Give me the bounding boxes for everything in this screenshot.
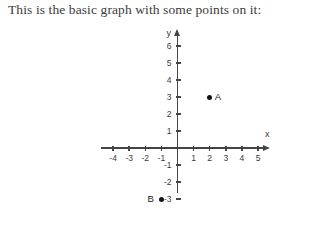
y-axis-tick-label: 3 bbox=[152, 92, 172, 102]
y-axis-tick-label: 2 bbox=[152, 109, 172, 119]
y-axis-tick-label: 1 bbox=[152, 126, 172, 136]
y-axis-tick-label: -2 bbox=[152, 177, 172, 187]
y-axis-tick-label: 4 bbox=[152, 75, 172, 85]
x-axis-tick bbox=[193, 146, 195, 151]
y-axis-tick bbox=[176, 181, 181, 183]
x-axis-arrow-icon bbox=[263, 145, 270, 151]
data-point-a bbox=[207, 95, 212, 100]
x-axis-tick bbox=[128, 146, 130, 151]
coordinate-graph: x y -4-3-2-112345654321-1-2-3AB bbox=[0, 0, 316, 227]
data-point-label-a: A bbox=[215, 91, 221, 102]
y-axis-tick bbox=[176, 164, 181, 166]
y-axis-tick bbox=[176, 113, 181, 115]
y-axis-tick bbox=[176, 130, 181, 132]
x-axis-label: x bbox=[265, 129, 270, 139]
y-axis-tick bbox=[176, 96, 181, 98]
x-axis-tick bbox=[209, 146, 211, 151]
y-axis-arrow-icon bbox=[174, 29, 180, 36]
y-axis-tick-label: 6 bbox=[152, 41, 172, 51]
x-axis-tick bbox=[225, 146, 227, 151]
y-axis-tick-label: -1 bbox=[152, 160, 172, 170]
y-axis-tick-label: 5 bbox=[152, 58, 172, 68]
x-axis-tick bbox=[241, 146, 243, 151]
data-point-b bbox=[159, 197, 164, 202]
y-axis-tick bbox=[176, 198, 181, 200]
x-axis-tick bbox=[145, 146, 147, 151]
y-axis-tick bbox=[176, 62, 181, 64]
x-axis-tick bbox=[112, 146, 114, 151]
y-axis-tick bbox=[176, 45, 181, 47]
data-point-label-b: B bbox=[147, 193, 153, 204]
x-axis-tick-label: 5 bbox=[248, 153, 268, 163]
y-axis-label: y bbox=[167, 28, 172, 38]
x-axis-tick bbox=[257, 146, 259, 151]
y-axis-tick bbox=[176, 79, 181, 81]
x-axis-line bbox=[101, 147, 263, 149]
x-axis-tick bbox=[161, 146, 163, 151]
